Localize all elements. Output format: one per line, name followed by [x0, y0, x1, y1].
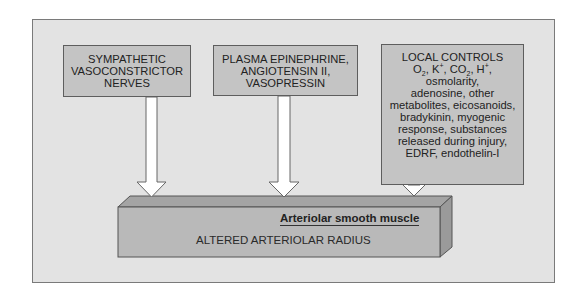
arrow-down-icon [269, 96, 299, 197]
box-line: osmolarity, [426, 75, 479, 87]
block-side-face [440, 196, 452, 257]
box-line: SYMPATHETIC [88, 53, 166, 65]
box-line: metabolites, eicosanoids, [390, 99, 516, 111]
block-top-face [118, 196, 452, 207]
box-line: ANGIOTENSIN II, [241, 65, 331, 77]
box-line: adenosine, other [411, 87, 494, 99]
box-line: EDRF, endothelin-I [406, 147, 500, 159]
target-label: Arteriolar smooth muscle [280, 212, 419, 226]
target-text: ALTERED ARTERIOLAR RADIUS [196, 234, 371, 246]
box-line: response, substances [398, 123, 507, 135]
input-box-sympathetic-nerves: SYMPATHETIC VASOCONSTRICTOR NERVES [63, 45, 191, 97]
ions-line: O2, K+, CO2, H+, [413, 63, 492, 75]
box-heading: LOCAL CONTROLS [402, 51, 504, 63]
box-line: PLASMA EPINEPHRINE, [222, 53, 349, 65]
box-line: NERVES [104, 77, 150, 89]
input-box-hormones: PLASMA EPINEPHRINE, ANGIOTENSIN II, VASO… [213, 45, 358, 96]
box-line: bradykinin, myogenic [400, 111, 505, 123]
arrow-down-icon [137, 97, 166, 197]
input-box-local-controls: LOCAL CONTROLS O2, K+, CO2, H+, osmolari… [381, 44, 524, 185]
box-line: released during injury, [398, 135, 507, 147]
box-line: VASOCONSTRICTOR [71, 65, 183, 77]
box-line: VASOPRESSIN [246, 77, 325, 89]
